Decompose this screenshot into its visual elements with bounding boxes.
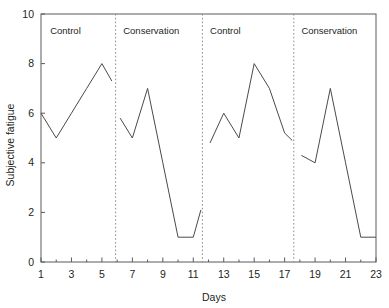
phase-labels: ControlConservationControlConservation xyxy=(50,25,357,36)
x-tick-label: 19 xyxy=(309,268,321,280)
phase-label: Control xyxy=(210,25,241,36)
x-tick-label: 11 xyxy=(188,268,199,280)
data-series-segment xyxy=(210,64,292,143)
y-tick-label: 0 xyxy=(28,256,34,268)
y-tick-label: 8 xyxy=(28,57,34,69)
phase-label: Conservation xyxy=(123,25,179,36)
x-tick-label: 17 xyxy=(279,268,291,280)
subjective-fatigue-line-chart: 0246810 1357911131517192123 ControlConse… xyxy=(0,0,389,308)
x-tick-label: 21 xyxy=(340,268,352,280)
y-tick-label: 6 xyxy=(28,107,34,119)
x-tick-label: 15 xyxy=(248,268,260,280)
x-tick-label: 5 xyxy=(99,268,105,280)
x-axis-tick-labels: 1357911131517192123 xyxy=(38,268,382,280)
chart-canvas: 0246810 1357911131517192123 ControlConse… xyxy=(0,0,389,308)
x-axis-title: Days xyxy=(202,291,226,303)
y-axis-title: Subjective fatigue xyxy=(4,103,16,186)
x-tick-label: 3 xyxy=(69,268,75,280)
x-tick-label: 23 xyxy=(370,268,382,280)
y-axis-ticks xyxy=(41,14,45,262)
x-axis-ticks xyxy=(41,258,376,263)
phase-label: Conservation xyxy=(301,25,357,36)
y-tick-label: 2 xyxy=(28,206,34,218)
y-tick-label: 4 xyxy=(28,156,34,168)
x-tick-label: 9 xyxy=(160,268,166,280)
plot-frame xyxy=(41,14,376,262)
data-series-segment xyxy=(301,88,376,237)
data-series-segment xyxy=(120,88,201,237)
data-series-segment xyxy=(41,64,112,138)
plot-border xyxy=(41,14,376,262)
phase-divider-lines xyxy=(116,14,294,262)
phase-label: Control xyxy=(50,25,81,36)
x-tick-label: 13 xyxy=(218,268,230,280)
x-tick-label: 1 xyxy=(38,268,44,280)
y-tick-label: 10 xyxy=(22,8,34,20)
y-axis-tick-labels: 0246810 xyxy=(22,8,34,268)
x-tick-label: 7 xyxy=(129,268,135,280)
data-series-lines xyxy=(41,64,376,238)
